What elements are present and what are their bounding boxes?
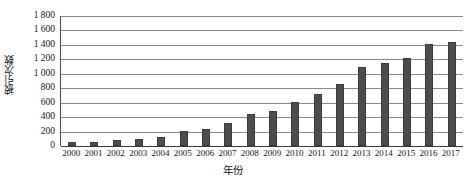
bar-slot (284, 16, 306, 146)
x-axis-tick-label: 2002 (107, 148, 125, 159)
y-axis-tick-label: 1 800 (34, 11, 55, 21)
x-axis-tick-label: 2017 (442, 148, 460, 159)
x-axis-tick-label: 2009 (263, 148, 281, 159)
bar[interactable] (269, 111, 277, 146)
y-axis-tick-label: 600 (41, 98, 55, 108)
bar[interactable] (202, 129, 210, 146)
bar-slot (83, 16, 105, 146)
bar-slot (441, 16, 463, 146)
x-axis-tick-label: 2007 (219, 148, 237, 159)
y-axis-tick-label: 400 (41, 112, 55, 122)
bar[interactable] (314, 94, 322, 146)
y-axis-tick-label: 800 (41, 83, 55, 93)
bar[interactable] (180, 131, 188, 146)
bar-slot (240, 16, 262, 146)
bar-slot (351, 16, 373, 146)
y-axis-tick-label: 1 200 (34, 55, 55, 65)
bar[interactable] (157, 137, 165, 146)
x-axis-tick-label: 2010 (286, 148, 304, 159)
x-axis-tick-label: 2013 (353, 148, 371, 159)
plot-area (60, 16, 463, 146)
x-axis-tick-label: 2003 (129, 148, 147, 159)
bar[interactable] (448, 42, 456, 146)
bar-slot (150, 16, 172, 146)
bar-chart: 被引次数 02004006008001 0001 2001 4001 6001 … (0, 0, 466, 190)
bar[interactable] (381, 63, 389, 146)
bar[interactable] (113, 140, 121, 146)
x-axis-tick-label: 2008 (241, 148, 259, 159)
x-axis-line (61, 146, 463, 147)
bar-slot (418, 16, 440, 146)
y-axis-tick-label: 1 600 (34, 26, 55, 36)
x-axis-tick-label: 2004 (152, 148, 170, 159)
bar[interactable] (224, 123, 232, 146)
bar-slot (173, 16, 195, 146)
bars-layer (61, 16, 463, 146)
y-axis-tick-label: 1 000 (34, 69, 55, 79)
bar[interactable] (68, 142, 76, 146)
x-axis-tick-labels: 2000200120022003200420052006200720082009… (60, 148, 462, 162)
x-axis-tick-label: 2012 (330, 148, 348, 159)
bar[interactable] (425, 44, 433, 146)
bar-slot (217, 16, 239, 146)
bar-slot (374, 16, 396, 146)
bar[interactable] (291, 102, 299, 146)
bar[interactable] (247, 114, 255, 147)
bar-slot (396, 16, 418, 146)
y-axis-tick-labels: 02004006008001 0001 2001 4001 6001 800 (18, 0, 58, 190)
x-axis-tick-label: 2014 (375, 148, 393, 159)
bar-slot (128, 16, 150, 146)
y-axis-tick-label: 1 400 (34, 40, 55, 50)
x-axis-title: 年份 (0, 166, 466, 177)
bar-slot (195, 16, 217, 146)
bar[interactable] (135, 139, 143, 146)
bar-slot (262, 16, 284, 146)
bar[interactable] (90, 142, 98, 146)
y-axis-tick-label: 200 (41, 127, 55, 137)
y-axis-title: 被引次数 (2, 0, 18, 150)
x-axis-tick-label: 2001 (85, 148, 103, 159)
bar-slot (307, 16, 329, 146)
bar[interactable] (336, 84, 344, 146)
x-axis-tick-label: 2015 (397, 148, 415, 159)
x-axis-tick-label: 2006 (196, 148, 214, 159)
x-axis-tick-label: 2011 (308, 148, 326, 159)
x-axis-tick-label: 2000 (62, 148, 80, 159)
bar-slot (106, 16, 128, 146)
bar-slot (61, 16, 83, 146)
y-axis-title-label: 被引次数 (5, 55, 15, 95)
bar[interactable] (358, 67, 366, 146)
x-axis-tick-label: 2016 (420, 148, 438, 159)
bar[interactable] (403, 58, 411, 146)
y-axis-tick-label: 0 (50, 141, 55, 151)
x-axis-title-label: 年份 (223, 165, 243, 176)
x-axis-tick-label: 2005 (174, 148, 192, 159)
bar-slot (329, 16, 351, 146)
